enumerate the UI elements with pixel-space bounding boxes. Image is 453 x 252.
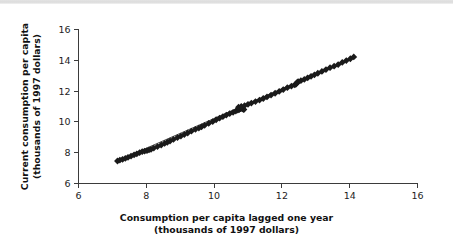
x-tick-label: 12 bbox=[276, 190, 288, 201]
y-tick-label: 10 bbox=[58, 116, 70, 127]
x-axis-title-line2: (thousands of 1997 dollars) bbox=[0, 224, 453, 236]
x-tick-label: 8 bbox=[143, 190, 149, 201]
chart-figure: 68101214166810121416 Consumption per cap… bbox=[0, 0, 453, 252]
data-point-group bbox=[114, 54, 357, 165]
y-axis-title-wrapper: Current consumption per capita (thousand… bbox=[0, 0, 60, 200]
x-axis-title-line1: Consumption per capita lagged one year bbox=[120, 212, 333, 223]
y-tick-label: 6 bbox=[64, 178, 70, 189]
x-tick-label: 10 bbox=[208, 190, 220, 201]
y-tick-label: 12 bbox=[58, 86, 70, 97]
y-tick-label: 14 bbox=[58, 55, 70, 66]
y-tick-label: 8 bbox=[64, 147, 70, 158]
x-tick-label: 14 bbox=[344, 190, 356, 201]
tick-label-group: 68101214166810121416 bbox=[58, 24, 423, 201]
y-axis-title: Current consumption per capita (thousand… bbox=[19, 14, 42, 200]
x-tick-label: 16 bbox=[411, 190, 423, 201]
y-axis-title-line2: (thousands of 1997 dollars) bbox=[30, 14, 42, 200]
x-tick-label: 6 bbox=[75, 190, 81, 201]
x-axis-title: Consumption per capita lagged one year (… bbox=[0, 212, 453, 235]
y-axis-title-line1: Current consumption per capita bbox=[19, 23, 30, 190]
y-tick-label: 16 bbox=[58, 24, 70, 35]
